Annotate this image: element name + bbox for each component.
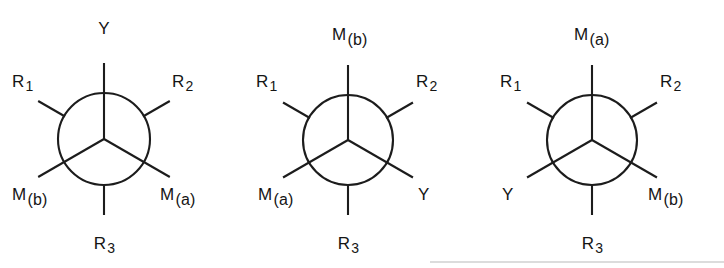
label-subscript-text: (a) (175, 191, 195, 208)
newman-projection-figure: YM(b)M(a)R1R2R3M(b)M(a)YR1R2R3M(a)YM(b)R… (0, 0, 724, 268)
structure-1-label-front-lower-right: M(a) (160, 186, 195, 203)
label-base-text: Y (502, 185, 514, 204)
label-base-text: R (12, 72, 24, 91)
structure-1 (38, 63, 170, 215)
structure-2 (283, 65, 413, 215)
structure-1-label-front-lower-left: M(b) (12, 186, 47, 203)
label-base-text: M (332, 25, 346, 44)
structure-3 (527, 65, 657, 215)
label-subscript-text: 1 (269, 78, 277, 94)
bond-back-upper-left (38, 101, 65, 117)
bond-back-upper-right (386, 103, 413, 119)
label-subscript-text: (b) (27, 191, 47, 208)
structure-1-label-back-down: R3 (94, 235, 114, 252)
bond-back-upper-right (143, 101, 170, 117)
label-base-text: M (574, 25, 588, 44)
structure-3-label-front-lower-right: M(b) (648, 186, 683, 203)
structure-2-label-back-down: R3 (338, 235, 358, 252)
label-subscript-text: (a) (273, 191, 293, 208)
structure-2-label-back-upper-left: R1 (256, 73, 276, 90)
label-base-text: R (338, 234, 350, 253)
label-subscript-text: 3 (351, 240, 359, 256)
label-base-text: M (12, 185, 26, 204)
label-base-text: R (94, 234, 106, 253)
structure-1-label-front-up: Y (98, 20, 110, 37)
structure-2-label-front-up: M(b) (332, 26, 367, 43)
structure-2-label-front-lower-left: M(a) (258, 186, 293, 203)
label-base-text: M (648, 185, 662, 204)
structure-1-label-back-upper-left: R1 (12, 73, 32, 90)
label-subscript-text: 3 (107, 240, 115, 256)
label-base-text: R (582, 234, 594, 253)
label-subscript-text: 1 (25, 78, 33, 94)
label-base-text: R (500, 72, 512, 91)
label-base-text: Y (98, 19, 110, 38)
structure-3-label-front-up: M(a) (574, 26, 609, 43)
label-subscript-text: (a) (589, 31, 609, 48)
label-base-text: R (172, 72, 184, 91)
label-subscript-text: (b) (347, 31, 367, 48)
label-subscript-text: 2 (673, 78, 681, 94)
label-subscript-text: 2 (185, 78, 193, 94)
bond-back-upper-left (283, 103, 310, 119)
bond-back-upper-right (630, 103, 657, 119)
structure-3-label-back-down: R3 (582, 235, 602, 252)
label-subscript-text: 3 (595, 240, 603, 256)
label-base-text: R (660, 72, 672, 91)
label-base-text: R (256, 72, 268, 91)
label-base-text: M (160, 185, 174, 204)
structure-1-label-back-upper-right: R2 (172, 73, 192, 90)
label-subscript-text: 1 (513, 78, 521, 94)
label-subscript-text: (b) (663, 191, 683, 208)
bond-back-upper-left (527, 103, 554, 119)
label-base-text: M (258, 185, 272, 204)
structure-2-label-back-upper-right: R2 (416, 73, 436, 90)
label-base-text: R (416, 72, 428, 91)
label-subscript-text: 2 (429, 78, 437, 94)
structure-3-label-back-upper-right: R2 (660, 73, 680, 90)
structure-2-label-front-lower-right: Y (418, 186, 430, 203)
structure-3-label-front-lower-left: Y (502, 186, 514, 203)
label-base-text: Y (418, 185, 430, 204)
structure-3-label-back-upper-left: R1 (500, 73, 520, 90)
